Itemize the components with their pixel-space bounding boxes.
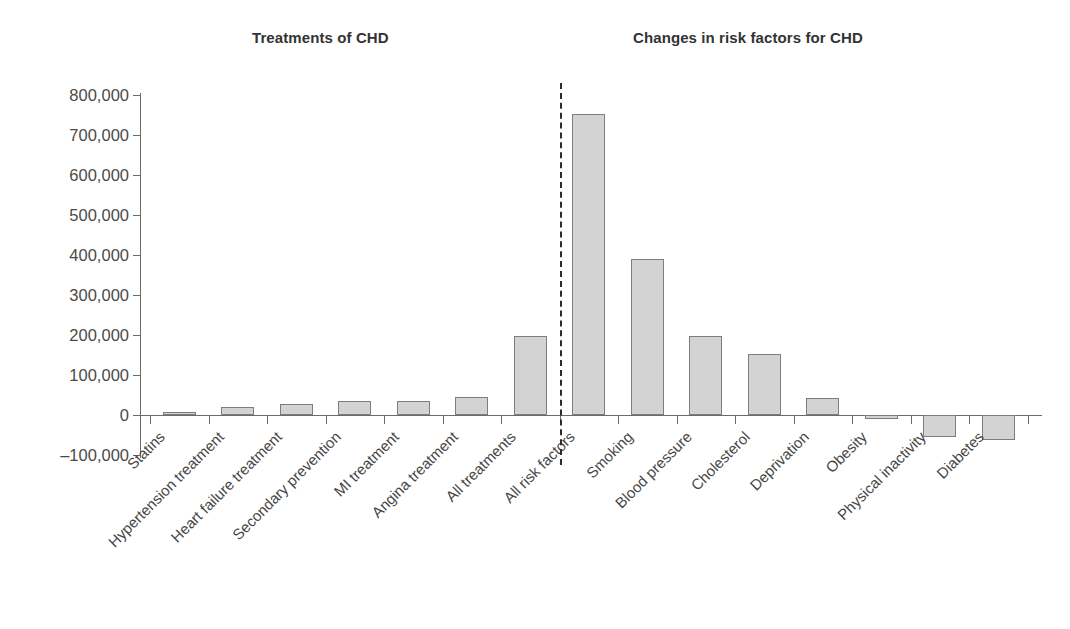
y-axis-tick-label: 0 — [120, 406, 129, 425]
y-axis-tick-mark — [133, 335, 141, 336]
x-axis-tick-mark — [1028, 416, 1029, 424]
x-axis-category-label-text: Statins — [124, 428, 168, 472]
x-axis-tick-mark — [911, 416, 912, 424]
x-axis-tick-mark — [384, 416, 385, 424]
plot-area: 800,000700,000600,000500,000400,000300,0… — [140, 88, 1038, 460]
x-axis-tick-mark — [735, 416, 736, 424]
y-axis-tick-mark — [133, 255, 141, 256]
y-axis-tick-mark — [133, 95, 141, 96]
y-axis-tick-label: 600,000 — [69, 166, 129, 185]
x-axis-tick-mark — [501, 416, 502, 424]
y-axis-line — [140, 93, 141, 458]
x-axis-category-label-text: Obesity — [822, 428, 870, 476]
y-axis-tick-label: 800,000 — [69, 86, 129, 105]
x-axis-tick-mark — [326, 416, 327, 424]
y-axis-tick-mark — [133, 215, 141, 216]
x-axis-category-label-text: Deprivation — [746, 428, 812, 494]
y-axis-tick-label: 700,000 — [69, 126, 129, 145]
y-axis-tick-label: –100,000 — [60, 446, 129, 465]
x-axis-category-label: Statins — [156, 396, 200, 440]
x-axis-category-label: Hypertension treatment — [215, 318, 337, 440]
x-axis-tick-mark — [618, 416, 619, 424]
x-axis-tick-mark — [150, 416, 151, 424]
x-axis-tick-mark — [267, 416, 268, 424]
x-axis-tick-mark — [677, 416, 678, 424]
x-axis-tick-mark — [443, 416, 444, 424]
y-axis-tick-mark — [133, 175, 141, 176]
y-axis-tick-label: 300,000 — [69, 286, 129, 305]
y-axis-tick-mark — [133, 375, 141, 376]
right-panel-title: Changes in risk factors for CHD — [633, 29, 863, 46]
x-axis-category-label-text: Secondary prevention — [228, 428, 343, 543]
x-axis-category-label: Secondary prevention — [332, 325, 447, 440]
x-axis-tick-mark — [969, 416, 970, 424]
y-axis-tick-mark — [133, 295, 141, 296]
y-axis-tick-mark — [133, 135, 141, 136]
y-axis-tick-label: 400,000 — [69, 246, 129, 265]
x-axis-tick-mark — [209, 416, 210, 424]
y-axis-tick-label: 500,000 — [69, 206, 129, 225]
x-axis-category-label: Heart failure treatment — [273, 322, 391, 440]
x-axis-category-label-text: Smoking — [583, 428, 636, 481]
x-axis-tick-mark — [794, 416, 795, 424]
y-axis-tick-mark — [133, 415, 141, 416]
left-panel-title: Treatments of CHD — [252, 29, 389, 46]
x-axis-tick-mark — [852, 416, 853, 424]
panel-divider-dashed-line — [560, 83, 562, 465]
chart-figure: Treatments of CHD Changes in risk factor… — [0, 0, 1070, 629]
y-axis-tick-label: 100,000 — [69, 366, 129, 385]
x-axis-category-label-text: Heart failure treatment — [167, 428, 285, 546]
y-axis-tick-label: 200,000 — [69, 326, 129, 345]
